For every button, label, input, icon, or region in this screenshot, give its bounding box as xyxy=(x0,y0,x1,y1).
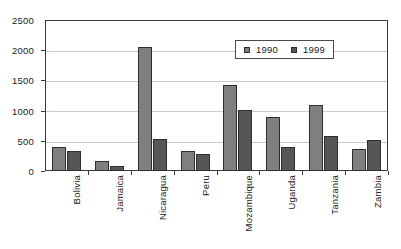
y-tick-label-500: 500 xyxy=(18,136,34,147)
bar-zambia-1999 xyxy=(367,140,381,171)
x-label-peru: Peru xyxy=(200,175,211,196)
legend-swatch-1990-icon xyxy=(244,47,250,53)
bar-mozambique-1999 xyxy=(238,110,252,171)
bar-bolivia-1999 xyxy=(67,151,81,171)
legend-label-1999: 1999 xyxy=(303,44,325,55)
x-axis-labels: BoliviaJamaicaNicaraguaPeruMozambiqueUga… xyxy=(0,171,401,249)
x-label-mozambique: Mozambique xyxy=(243,175,254,231)
bar-uganda-1999 xyxy=(281,147,295,171)
y-tick-label-1500: 1500 xyxy=(12,75,34,86)
y-tick-label-2500: 2500 xyxy=(12,15,34,26)
bar-group xyxy=(352,20,381,171)
bar-uganda-1990 xyxy=(266,117,280,171)
bars-layer xyxy=(45,20,388,171)
bar-nicaragua-1999 xyxy=(153,139,167,171)
bar-group xyxy=(181,20,210,171)
bar-group xyxy=(138,20,167,171)
legend-label-1990: 1990 xyxy=(256,44,278,55)
x-label-uganda: Uganda xyxy=(286,175,297,209)
bar-mozambique-1990 xyxy=(223,85,237,171)
x-label-tanzania: Tanzania xyxy=(329,175,340,215)
bar-zambia-1990 xyxy=(352,149,366,171)
bar-group xyxy=(95,20,124,171)
legend-swatch-1999-icon xyxy=(291,47,297,53)
bar-peru-1999 xyxy=(196,154,210,171)
bar-bolivia-1990 xyxy=(52,147,66,171)
bar-jamaica-1990 xyxy=(95,161,109,171)
x-label-nicaragua: Nicaragua xyxy=(157,175,168,220)
y-axis: 2500 2000 1500 1000 500 0 xyxy=(0,0,41,191)
chart-legend: 1990 1999 xyxy=(235,40,334,59)
legend-entry-1999: 1999 xyxy=(291,44,325,55)
y-tick-label-2000: 2000 xyxy=(12,45,34,56)
bar-chart: 2500 2000 1500 1000 500 0 BoliviaJamaica… xyxy=(0,0,401,249)
y-tick-label-1000: 1000 xyxy=(12,106,34,117)
legend-entry-1990: 1990 xyxy=(244,44,278,55)
x-label-bolivia: Bolivia xyxy=(71,175,82,204)
bar-tanzania-1990 xyxy=(309,105,323,171)
bar-tanzania-1999 xyxy=(324,136,338,171)
bar-peru-1990 xyxy=(181,151,195,171)
bar-nicaragua-1990 xyxy=(138,47,152,171)
bar-group xyxy=(52,20,81,171)
x-label-jamaica: Jamaica xyxy=(114,175,125,212)
x-label-zambia: Zambia xyxy=(372,175,383,208)
